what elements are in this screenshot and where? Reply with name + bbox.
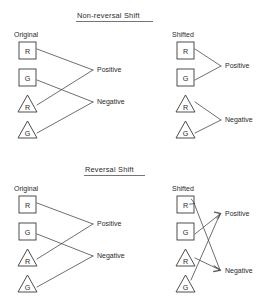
- triangle-g-letter: G: [25, 129, 31, 138]
- stimulus-square-r-top-left: R: [19, 42, 36, 59]
- stimulus-square-g-bottom-left: G: [19, 223, 36, 240]
- link-square-r-to-positive: [195, 49, 221, 66]
- link-square-r-to-positive: [37, 203, 93, 224]
- stimulus-square-g-bottom-right: G: [177, 223, 194, 240]
- column-label-original-bottom: Original: [14, 185, 39, 193]
- diagram-canvas: Non-reversal Shift Original R G R: [0, 0, 274, 297]
- stimulus-triangle-g-bottom-left: G: [18, 275, 37, 292]
- section-non-reversal-shift: Non-reversal Shift Original R G R: [14, 11, 253, 138]
- link-square-g-to-positive: [195, 66, 221, 80]
- square-g-letter: G: [25, 228, 31, 237]
- panel-bottom-right-shifted: Shifted R G R G: [172, 185, 253, 292]
- link-triangle-r-to-positive: [37, 70, 93, 105]
- section-reversal-shift: Reversal Shift Original R G R G: [14, 165, 253, 292]
- square-r-letter: R: [183, 47, 188, 56]
- outcome-positive-top-right: Positive: [225, 62, 250, 69]
- square-r-letter: R: [25, 47, 30, 56]
- outcome-positive-top-left: Positive: [97, 66, 122, 73]
- panel-top-left-original: Original R G R G: [14, 31, 125, 138]
- link-square-g-to-positive: [195, 214, 220, 234]
- triangle-g-letter: G: [25, 283, 31, 292]
- square-r-letter: R: [183, 201, 188, 210]
- link-square-g-to-negative: [37, 234, 93, 256]
- link-triangle-r-to-positive: [37, 224, 93, 259]
- non-reversal-shift-title: Non-reversal Shift: [77, 11, 140, 20]
- outcome-negative-top-right: Negative: [225, 116, 253, 124]
- triangle-r-letter: R: [183, 103, 188, 112]
- panel-top-right-shifted: Shifted R G R G Positive Negative: [172, 31, 253, 138]
- triangle-g-letter: G: [183, 283, 189, 292]
- link-square-g-to-negative: [37, 80, 93, 102]
- stimulus-triangle-g-top-right: G: [176, 121, 195, 138]
- triangle-r-letter: R: [25, 103, 30, 112]
- column-label-original-top: Original: [14, 31, 39, 39]
- panel-bottom-left-original: Original R G R G Positive Negativ: [14, 185, 125, 292]
- column-label-shifted-top: Shifted: [172, 31, 194, 38]
- reversal-shift-title: Reversal Shift: [85, 165, 134, 174]
- link-triangle-g-to-negative: [37, 256, 93, 287]
- stimulus-square-g-top-right: G: [177, 69, 194, 86]
- square-g-letter: G: [25, 74, 31, 83]
- square-g-letter: G: [183, 74, 189, 83]
- link-triangle-g-to-negative: [195, 120, 221, 133]
- stimulus-triangle-g-top-left: G: [18, 121, 37, 138]
- stimulus-square-r-top-right: R: [177, 42, 194, 59]
- outcome-negative-bottom-right: Negative: [225, 267, 253, 275]
- stimulus-square-r-bottom-left: R: [19, 196, 36, 213]
- stimulus-square-g-top-left: G: [19, 69, 36, 86]
- outcome-negative-top-left: Negative: [97, 98, 125, 106]
- column-label-shifted-bottom: Shifted: [172, 185, 194, 192]
- link-triangle-g-to-negative: [37, 102, 93, 133]
- link-triangle-r-to-negative: [195, 102, 221, 120]
- triangle-g-letter: G: [183, 129, 189, 138]
- stimulus-triangle-r-top-right: R: [176, 95, 195, 112]
- square-g-letter: G: [183, 228, 189, 237]
- stimulus-square-r-bottom-right: R: [177, 196, 194, 213]
- outcome-negative-bottom-left: Negative: [97, 252, 125, 260]
- triangle-r-letter: R: [183, 257, 188, 266]
- outcome-positive-bottom-left: Positive: [97, 220, 122, 227]
- outcome-positive-bottom-right: Positive: [225, 210, 250, 217]
- square-r-letter: R: [25, 201, 30, 210]
- stimulus-triangle-r-top-left: R: [18, 95, 37, 112]
- link-triangle-g-to-positive: [191, 214, 220, 280]
- shift-diagram-figure: Non-reversal Shift Original R G R: [0, 0, 274, 297]
- link-square-r-to-positive: [37, 49, 93, 70]
- stimulus-triangle-r-bottom-right: R: [176, 249, 195, 266]
- triangle-r-letter: R: [25, 257, 30, 266]
- stimulus-triangle-r-bottom-left: R: [18, 249, 37, 266]
